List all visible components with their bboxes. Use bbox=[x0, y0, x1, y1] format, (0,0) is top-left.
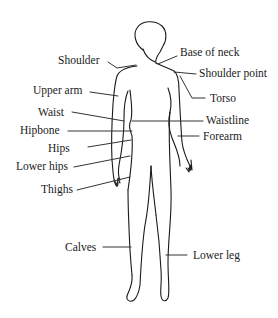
inner-right-leg bbox=[151, 166, 156, 215]
label-lower-hips: Lower hips bbox=[16, 160, 68, 173]
leader-lower-hips bbox=[74, 156, 130, 167]
label-waist: Waist bbox=[38, 106, 64, 119]
left-inner-arm bbox=[119, 91, 128, 180]
head-outline bbox=[135, 22, 166, 63]
label-hipbone: Hipbone bbox=[20, 124, 60, 137]
leader-thighs bbox=[77, 177, 130, 190]
leader-base-of-neck bbox=[158, 56, 177, 64]
leader-hips bbox=[88, 140, 131, 147]
label-calves: Calves bbox=[65, 241, 96, 254]
neck-outline bbox=[143, 49, 155, 62]
body-diagram: Shoulder Upper arm Waist Hipbone Hips Lo… bbox=[0, 0, 278, 318]
right-hand bbox=[186, 160, 192, 172]
crotch-outline bbox=[127, 166, 151, 301]
label-hips: Hips bbox=[48, 142, 70, 155]
label-shoulder: Shoulder bbox=[58, 54, 100, 67]
label-waistline: Waistline bbox=[206, 114, 249, 127]
label-thighs: Thighs bbox=[41, 183, 73, 196]
leader-waist bbox=[72, 112, 124, 121]
label-forearm: Forearm bbox=[203, 130, 242, 143]
label-shoulder-point: Shoulder point bbox=[199, 67, 267, 80]
label-base-of-neck: Base of neck bbox=[180, 46, 239, 59]
label-lower-leg: Lower leg bbox=[193, 249, 240, 262]
right-torso-side bbox=[156, 112, 171, 301]
leader-shoulder-point bbox=[174, 72, 196, 74]
right-shoulder-outline bbox=[156, 63, 191, 170]
label-upper-arm: Upper arm bbox=[33, 84, 83, 97]
label-torso: Torso bbox=[210, 92, 236, 105]
left-leg-outline bbox=[128, 190, 132, 275]
